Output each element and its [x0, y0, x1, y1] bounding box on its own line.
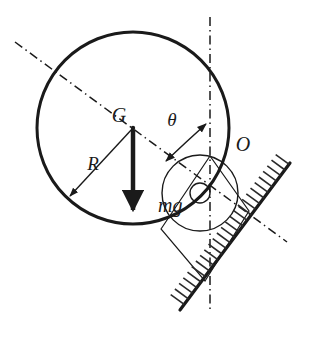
center-of-mass-point — [131, 126, 135, 130]
label-center-of-mass: G — [112, 104, 127, 126]
pivot-circle — [190, 183, 210, 203]
physics-diagram-figure: G θ O R mg — [0, 0, 309, 348]
label-contact-point: O — [236, 133, 250, 155]
label-weight-force: mg — [158, 194, 182, 217]
radius-dimension-arrow — [70, 128, 133, 196]
label-radius: R — [86, 153, 99, 174]
physics-diagram-canvas: G θ O R mg — [0, 0, 309, 348]
label-angle-theta: θ — [167, 109, 176, 130]
inner-arc-circle — [162, 155, 238, 231]
square-frame-outline — [161, 156, 249, 281]
